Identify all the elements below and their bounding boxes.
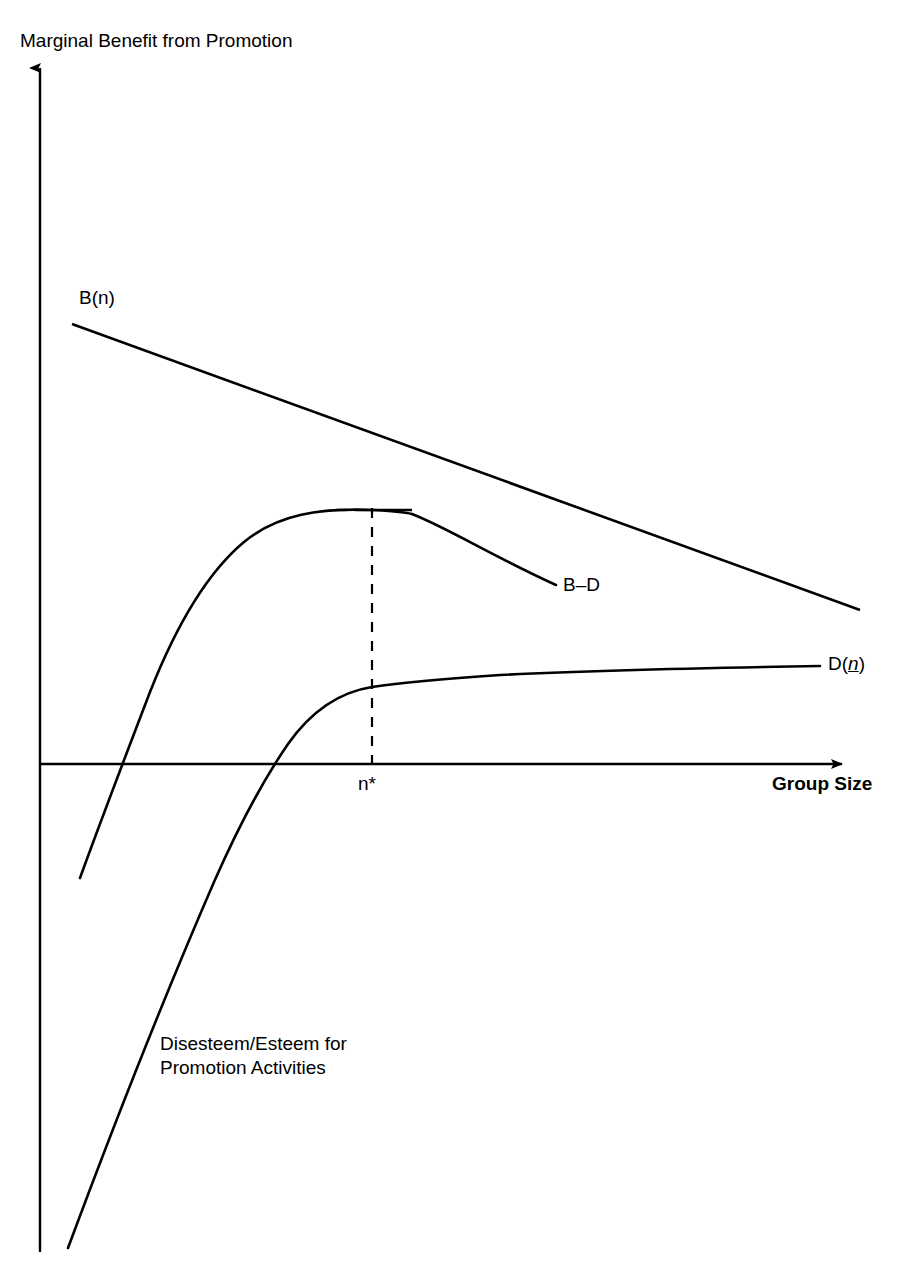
disesteem-curve	[68, 666, 820, 1248]
disesteem-curve-label: D(n)	[828, 652, 865, 676]
benefit-curve-label: B(n)	[79, 286, 115, 310]
bottom-note-line-1: Disesteem/Esteem for	[160, 1033, 347, 1054]
bottom-note: Disesteem/Esteem forPromotion Activities	[160, 1032, 347, 1079]
bottom-note-line-2: Promotion Activities	[160, 1057, 326, 1078]
disesteem-label-suffix: )	[859, 653, 865, 674]
y-axis-label: Marginal Benefit from Promotion	[20, 29, 292, 53]
net-benefit-curve-label: B–D	[563, 573, 600, 597]
optimum-tick-label: n*	[358, 772, 376, 796]
figure-container: Marginal Benefit from Promotion Group Si…	[0, 0, 911, 1275]
benefit-curve	[72, 324, 860, 610]
net-benefit-curve	[80, 510, 556, 878]
x-axis-label: Group Size	[772, 772, 872, 796]
disesteem-label-prefix: D(	[828, 653, 848, 674]
diagram-canvas	[0, 0, 911, 1275]
disesteem-label-variable: n	[848, 653, 859, 674]
